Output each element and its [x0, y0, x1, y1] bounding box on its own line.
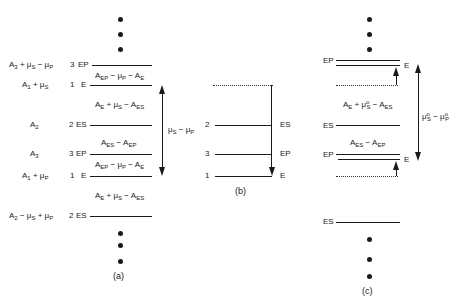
energy-level-line — [336, 154, 400, 155]
level-num: 1 — [70, 171, 74, 181]
level-state: EP — [323, 150, 334, 160]
energy-level-line — [215, 125, 272, 126]
arrow-label: μoS − μoP — [422, 112, 449, 122]
energy-level-line — [90, 125, 152, 126]
left-expr: A2 — [30, 120, 39, 130]
level-num: 2 — [69, 120, 73, 130]
ellipsis-dot — [118, 47, 123, 52]
arrow-label: μS − μP — [168, 125, 194, 135]
arrow-shaft — [271, 85, 272, 168]
level-num: 2 — [205, 120, 209, 130]
ellipsis-dot — [367, 237, 372, 242]
level-num: 1 — [70, 80, 74, 90]
gap-label: AES − AEP — [101, 138, 136, 148]
level-state: ES — [76, 211, 87, 221]
panel-caption: (c) — [362, 286, 373, 296]
ellipsis-dot — [118, 231, 123, 236]
left-expr: A1 + μP — [22, 171, 48, 181]
energy-level-line — [90, 176, 152, 177]
level-state: E — [404, 61, 409, 71]
level-state: EP — [78, 60, 89, 70]
gap-label: AEP − μP − AE — [95, 160, 144, 170]
ellipsis-dot — [367, 17, 372, 22]
energy-level-line — [338, 159, 400, 160]
left-expr: A1 + μS — [22, 80, 48, 90]
ellipsis-dot — [118, 17, 123, 22]
arrow-shaft — [396, 168, 397, 176]
arrow-shaft — [396, 74, 397, 85]
ellipsis-dot — [118, 259, 123, 264]
energy-level-line — [336, 60, 400, 61]
level-state: ES — [76, 120, 87, 130]
ellipsis-dot — [367, 47, 372, 52]
level-state: EP — [280, 149, 291, 159]
level-state: E — [404, 155, 409, 165]
level-state: ES — [323, 217, 334, 227]
level-state: ES — [280, 120, 291, 130]
energy-level-line — [336, 65, 400, 66]
gap-label: AE + μS − AES — [95, 191, 144, 201]
level-state: ES — [323, 121, 334, 131]
level-num: 3 — [69, 149, 73, 159]
gap-label: AE + μS − AES — [95, 100, 144, 110]
arrow-head-down-icon — [415, 152, 421, 161]
panel-caption: (b) — [235, 186, 246, 196]
double-arrow-shaft — [418, 71, 419, 153]
level-state: E — [81, 171, 86, 181]
energy-level-line — [336, 222, 400, 223]
energy-level-line — [90, 216, 152, 217]
energy-level-line — [215, 154, 272, 155]
ellipsis-dot — [367, 274, 372, 279]
left-expr: A2 − μS + μP — [9, 211, 53, 221]
energy-level-line — [90, 154, 152, 155]
level-num: 3 — [205, 149, 209, 159]
dotted-reference-line — [213, 85, 273, 86]
ellipsis-dot — [118, 32, 123, 37]
arrow-head-down-icon — [159, 167, 165, 176]
ellipsis-dot — [367, 32, 372, 37]
gap-label: AE + μoS − AES — [343, 100, 392, 110]
dotted-reference-line — [336, 85, 398, 86]
left-expr: A3 + μS − μP — [9, 60, 53, 70]
arrow-head-down-icon — [269, 167, 275, 176]
ellipsis-dot — [367, 257, 372, 262]
level-num: 1 — [205, 171, 209, 181]
level-state: E — [280, 171, 285, 181]
gap-label: AES − AEP — [350, 138, 385, 148]
level-state: EP — [323, 56, 334, 66]
level-num: 3 — [70, 60, 74, 70]
energy-level-line — [215, 176, 272, 177]
level-state: EP — [76, 149, 87, 159]
left-expr: A3 — [30, 149, 39, 159]
double-arrow-shaft — [162, 92, 163, 170]
energy-level-line — [90, 85, 152, 86]
energy-level-line — [336, 125, 400, 126]
gap-label: AEP − μP − AE — [95, 71, 144, 81]
level-num: 2 — [69, 211, 73, 221]
ellipsis-dot — [118, 243, 123, 248]
energy-level-line — [92, 65, 152, 66]
dotted-reference-line — [336, 176, 398, 177]
level-state: E — [81, 80, 86, 90]
panel-caption: (a) — [113, 271, 124, 281]
